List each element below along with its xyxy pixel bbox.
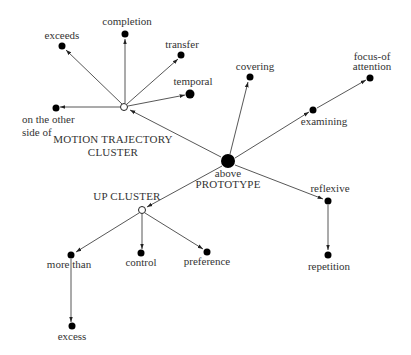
node-examining[interactable] — [310, 107, 317, 114]
label-up-cluster: UP CLUSTER — [93, 190, 161, 202]
edge-prototype-examining — [235, 112, 309, 158]
label-reflexive: reflexive — [310, 182, 349, 194]
label-covering: covering — [236, 60, 275, 72]
node-completion[interactable] — [122, 31, 129, 38]
label-completion: completion — [102, 15, 152, 27]
node-transfer[interactable] — [178, 52, 185, 59]
labels: above PROTOTYPE MOTION TRAJECTORY CLUSTE… — [22, 15, 392, 342]
label-temporal: temporal — [173, 75, 212, 87]
label-more-than: more than — [47, 258, 92, 270]
node-on-the-other-side-of[interactable] — [53, 105, 60, 112]
edge-up-preference — [145, 213, 203, 249]
node-prototype[interactable] — [221, 154, 235, 168]
label-excess: excess — [58, 330, 87, 342]
label-preference: preference — [184, 255, 231, 267]
label-transfer: transfer — [165, 38, 199, 50]
node-motion-trajectory-cluster[interactable] — [121, 104, 128, 111]
edge-motion-temporal — [128, 95, 185, 106]
label-examining: examining — [301, 115, 348, 127]
edge-motion-exceeds — [66, 50, 122, 104]
edge-examining-focus — [317, 80, 366, 108]
label-prototype: PROTOTYPE — [195, 178, 260, 190]
semantic-network-diagram: above PROTOTYPE MOTION TRAJECTORY CLUSTE… — [0, 0, 411, 355]
edge-motion-transfer — [127, 59, 178, 104]
edge-prototype-covering — [230, 82, 248, 154]
node-repetition[interactable] — [325, 252, 332, 259]
node-reflexive[interactable] — [325, 198, 332, 205]
node-exceeds[interactable] — [59, 43, 66, 50]
node-focus-of-attention[interactable] — [367, 75, 374, 82]
label-repetition: repetition — [308, 260, 351, 272]
label-attention: attention — [353, 60, 392, 72]
label-motion-trajectory: MOTION TRAJECTORY — [53, 133, 172, 145]
label-side-of: side of — [22, 126, 52, 138]
node-up-cluster[interactable] — [139, 207, 146, 214]
label-motion-cluster: CLUSTER — [88, 146, 139, 158]
node-temporal[interactable] — [186, 90, 195, 99]
label-control: control — [125, 256, 156, 268]
node-covering[interactable] — [247, 74, 254, 81]
label-on-the-other: on the other — [22, 113, 75, 125]
label-exceeds: exceeds — [45, 29, 80, 41]
edge-up-morethan — [76, 213, 139, 252]
node-excess[interactable] — [69, 323, 76, 330]
